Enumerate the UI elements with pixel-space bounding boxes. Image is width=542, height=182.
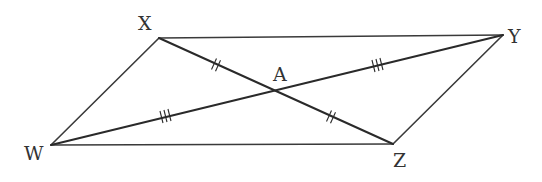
vertex-label-z: Z	[393, 149, 406, 171]
intersection-label-a: A	[272, 63, 287, 85]
side-xy	[159, 35, 503, 38]
side-zw	[51, 144, 393, 145]
vertex-label-w: W	[24, 142, 44, 164]
vertex-label-y: Y	[507, 25, 521, 47]
tick-marks-ay	[372, 58, 383, 72]
side-wx	[51, 38, 159, 145]
side-yz	[393, 35, 503, 144]
parallelogram-diagram: X Y W Z A	[0, 0, 542, 182]
vertex-label-x: X	[138, 12, 152, 34]
tick-marks-wa	[160, 109, 171, 123]
diagonal-wy	[51, 35, 503, 145]
